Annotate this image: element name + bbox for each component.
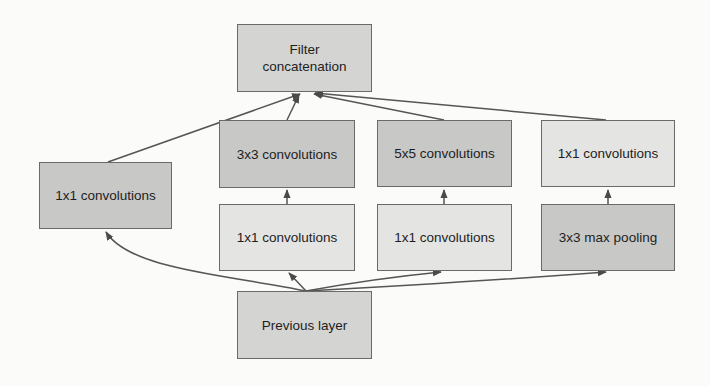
edge-prev-to-maxpool <box>306 272 606 291</box>
node-label: 1x1 convolutions <box>558 145 659 162</box>
node-label: concatenation <box>262 58 346 75</box>
edge-conv3x3-to-concat <box>287 95 299 120</box>
node-1x1-convolutions-direct: 1x1 convolutions <box>39 162 172 229</box>
node-previous-layer: Previous layer <box>237 291 372 359</box>
edge-pool-proj-to-concat <box>315 93 606 120</box>
node-label: 5x5 convolutions <box>394 145 495 162</box>
inception-module-diagram: Filter concatenation 3x3 convolutions 5x… <box>0 0 710 386</box>
node-1x1-convolutions-reduce-5x5: 1x1 convolutions <box>377 204 512 271</box>
node-1x1-convolutions-pool-projection: 1x1 convolutions <box>541 120 675 187</box>
node-3x3-max-pooling: 3x3 max pooling <box>541 204 675 271</box>
node-label: 1x1 convolutions <box>394 229 495 246</box>
edge-prev-to-conv1x1-reduce5 <box>306 272 441 291</box>
node-5x5-convolutions: 5x5 convolutions <box>377 120 512 187</box>
edge-prev-to-conv1x1-reduce3 <box>289 273 306 291</box>
node-label: 1x1 convolutions <box>55 187 156 204</box>
node-3x3-convolutions: 3x3 convolutions <box>219 120 355 188</box>
node-label: 1x1 convolutions <box>237 229 338 246</box>
node-filter-concatenation: Filter concatenation <box>237 24 372 92</box>
edge-conv5x5-to-concat <box>314 94 444 120</box>
node-label: Previous layer <box>262 317 348 334</box>
node-label: 3x3 convolutions <box>237 146 338 163</box>
node-label: 3x3 max pooling <box>559 229 657 246</box>
node-1x1-convolutions-reduce-3x3: 1x1 convolutions <box>219 204 355 271</box>
node-label: Filter <box>262 41 346 58</box>
